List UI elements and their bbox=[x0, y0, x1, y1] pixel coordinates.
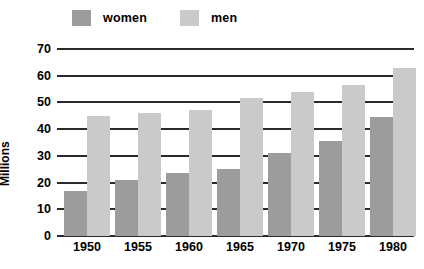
bar-women-1980 bbox=[370, 117, 393, 236]
legend-item-men: men bbox=[180, 10, 237, 26]
x-tick-1950: 1950 bbox=[73, 240, 101, 254]
x-tick-1960: 1960 bbox=[175, 240, 203, 254]
y-tick-30: 30 bbox=[37, 149, 51, 163]
y-tick-40: 40 bbox=[37, 122, 51, 136]
x-axis-tick-labels: 1950195519601965197019751980 bbox=[57, 240, 414, 260]
bar-chart: women men 010203040506070 19501955196019… bbox=[0, 0, 424, 269]
bar-women-1975 bbox=[319, 141, 342, 236]
bar-women-1960 bbox=[166, 173, 189, 236]
y-tick-50: 50 bbox=[37, 95, 51, 109]
bar-men-1975 bbox=[342, 85, 365, 236]
y-tick-70: 70 bbox=[37, 42, 51, 56]
bar-men-1955 bbox=[138, 113, 161, 236]
bar-men-1970 bbox=[291, 92, 314, 236]
bar-women-1965 bbox=[217, 169, 240, 236]
bar-men-1980 bbox=[393, 68, 416, 236]
legend-item-women: women bbox=[72, 10, 147, 26]
legend-swatch-women bbox=[72, 10, 91, 26]
legend-swatch-men bbox=[180, 10, 199, 26]
y-axis-title: Millions bbox=[0, 141, 12, 186]
legend-label-men: men bbox=[211, 11, 237, 25]
y-tick-0: 0 bbox=[44, 229, 51, 243]
x-tick-1975: 1975 bbox=[328, 240, 356, 254]
bar-women-1955 bbox=[115, 180, 138, 236]
plot-area bbox=[57, 49, 414, 236]
bar-women-1950 bbox=[64, 191, 87, 236]
y-tick-20: 20 bbox=[37, 176, 51, 190]
bar-men-1950 bbox=[87, 116, 110, 236]
x-tick-1965: 1965 bbox=[226, 240, 254, 254]
y-axis-tick-labels: 010203040506070 bbox=[20, 49, 51, 236]
x-tick-1955: 1955 bbox=[124, 240, 152, 254]
y-tick-10: 10 bbox=[37, 202, 51, 216]
x-tick-1970: 1970 bbox=[277, 240, 305, 254]
x-tick-1980: 1980 bbox=[379, 240, 407, 254]
bar-men-1960 bbox=[189, 110, 212, 236]
chart-legend: women men bbox=[0, 10, 424, 36]
bars-layer bbox=[57, 49, 414, 236]
bar-men-1965 bbox=[240, 98, 263, 236]
y-tick-60: 60 bbox=[37, 69, 51, 83]
bar-women-1970 bbox=[268, 153, 291, 236]
legend-label-women: women bbox=[103, 11, 147, 25]
